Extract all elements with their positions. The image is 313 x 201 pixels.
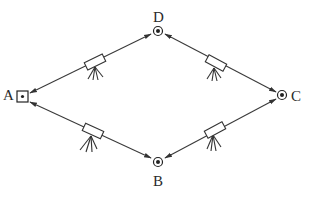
benchmark-a-marker — [17, 91, 28, 102]
label-c: C — [291, 88, 301, 104]
point-d-marker — [154, 27, 163, 36]
label-b: B — [153, 173, 163, 189]
label-d: D — [153, 9, 164, 25]
theodolite-icon — [205, 55, 226, 81]
theodolite-icon — [84, 54, 105, 80]
label-a: A — [3, 87, 14, 103]
traverse-diagram: A D C B — [0, 0, 313, 201]
theodolite-icon — [204, 122, 225, 151]
theodolite-icon — [80, 123, 104, 152]
point-c-marker — [278, 91, 287, 100]
point-b-marker — [154, 158, 163, 167]
